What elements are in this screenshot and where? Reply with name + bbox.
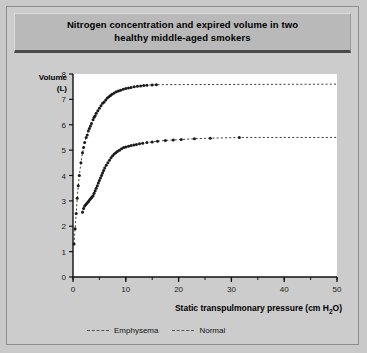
x-tick-label: 0 — [71, 285, 76, 294]
x-axis-label: Static transpulmonary pressure (cm H2O) — [127, 303, 342, 315]
x-axis-label-suffix: O) — [333, 303, 342, 313]
data-point — [108, 159, 111, 162]
data-point — [77, 184, 80, 187]
data-point — [81, 211, 84, 214]
data-point — [138, 142, 141, 145]
data-point — [124, 87, 127, 90]
data-point — [75, 212, 78, 215]
data-point — [180, 138, 183, 141]
data-point — [96, 109, 99, 112]
x-tick-label: 10 — [121, 285, 130, 294]
data-point — [83, 141, 86, 144]
data-point — [127, 86, 130, 89]
data-point — [156, 140, 159, 143]
data-point — [139, 84, 142, 87]
data-point — [164, 139, 167, 142]
x-tick-label: 40 — [280, 285, 289, 294]
y-tick-label: 4 — [62, 172, 67, 181]
chart-legend: Emphysema Normal — [73, 326, 317, 335]
x-tick-label: 50 — [333, 285, 342, 294]
chart-svg: 01234567801020304050 — [7, 7, 360, 346]
x-axis-label-prefix: Static transpulmonary pressure (cm H — [175, 303, 329, 313]
data-point — [81, 151, 84, 154]
legend-label-normal: Normal — [199, 326, 225, 335]
y-tick-label: 1 — [62, 248, 67, 257]
series-curve-emphysema — [74, 84, 337, 244]
data-point — [130, 144, 133, 147]
data-point — [90, 122, 93, 125]
x-tick-label: 20 — [174, 285, 183, 294]
data-point — [119, 89, 122, 92]
dashed-line-icon — [87, 330, 109, 331]
data-point — [133, 85, 136, 88]
plot-container: 01234567801020304050 — [7, 7, 360, 346]
data-point — [76, 197, 79, 200]
data-point — [193, 137, 196, 140]
legend-label-emphysema: Emphysema — [114, 326, 158, 335]
y-tick-label: 6 — [62, 121, 67, 130]
y-tick-label: 2 — [62, 222, 67, 231]
data-point — [73, 243, 76, 246]
legend-item-emphysema: Emphysema — [87, 326, 158, 335]
data-point — [155, 83, 158, 86]
y-tick-label: 8 — [62, 70, 67, 79]
y-tick-label: 0 — [62, 273, 67, 282]
data-point — [98, 107, 101, 110]
data-point — [209, 137, 212, 140]
data-point — [145, 84, 148, 87]
data-point — [141, 142, 144, 145]
data-point — [135, 143, 138, 146]
data-point — [86, 133, 89, 136]
data-point — [127, 145, 130, 148]
data-point — [82, 146, 85, 149]
data-point — [99, 104, 102, 107]
y-tick-label: 3 — [62, 197, 67, 206]
data-point — [130, 86, 133, 89]
data-point — [106, 161, 109, 164]
data-point — [136, 85, 139, 88]
data-point — [145, 141, 148, 144]
figure-panel: Nitrogen concentration and expired volum… — [6, 6, 359, 345]
data-point — [151, 141, 154, 144]
x-tick-label: 30 — [227, 285, 236, 294]
data-point — [95, 112, 98, 115]
dashed-line-icon — [172, 330, 194, 331]
data-point — [78, 174, 81, 177]
data-point — [122, 88, 125, 91]
data-point — [172, 138, 175, 141]
data-point — [132, 144, 135, 147]
data-point — [124, 146, 127, 149]
data-point — [142, 84, 145, 87]
data-point — [74, 227, 77, 230]
data-point — [238, 136, 241, 139]
data-point — [103, 166, 106, 169]
y-tick-label: 5 — [62, 146, 67, 155]
legend-item-normal: Normal — [172, 326, 225, 335]
y-tick-label: 7 — [62, 95, 67, 104]
data-point — [151, 83, 154, 86]
data-point — [79, 161, 82, 164]
data-point — [105, 164, 108, 167]
